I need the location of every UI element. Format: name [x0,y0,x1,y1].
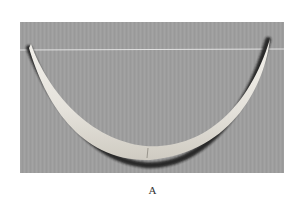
tusk-image [20,22,284,173]
figure-photo [20,22,284,173]
figure-caption: A [0,184,305,196]
